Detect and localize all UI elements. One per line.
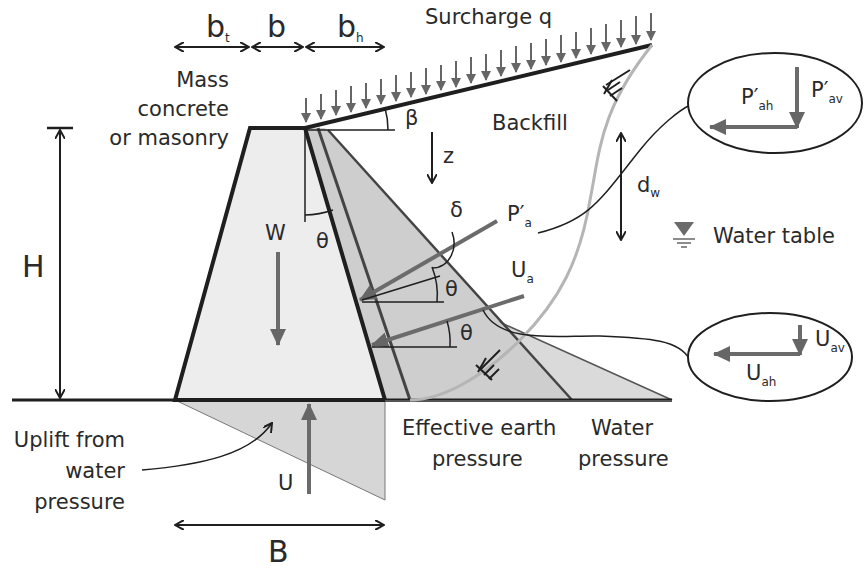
surcharge-arrows — [306, 13, 651, 122]
b-label: b — [267, 9, 286, 44]
Ua-label: Ua — [511, 258, 534, 286]
theta-label-Pa: θ — [445, 277, 458, 301]
wall-material-line1: Mass — [176, 68, 229, 92]
theta-label-wall: θ — [316, 229, 329, 253]
U-label: U — [278, 471, 293, 495]
uplift-label-line1: Uplift from — [14, 428, 125, 452]
W-label: W — [265, 221, 286, 245]
water-table-hatch-upper — [603, 70, 630, 101]
bt-label: bt — [206, 9, 230, 45]
bh-label: bh — [337, 9, 364, 45]
beta-angle-arc — [385, 108, 388, 130]
water-pressure-line2: pressure — [578, 447, 669, 471]
delta-label: δ — [450, 198, 463, 222]
effective-earth-pressure-line1: Effective earth — [402, 416, 556, 440]
wall-material-line2: concrete — [138, 97, 230, 121]
Pa-label: P′a — [507, 202, 532, 230]
dw-label: dw — [637, 173, 660, 200]
surcharge-label: Surcharge q — [425, 5, 552, 29]
retaining-wall-diagram: bt b bh Surcharge q Backfill β z Mass co… — [0, 0, 866, 568]
z-label: z — [443, 144, 454, 168]
theta-label-Ua: θ — [460, 321, 473, 345]
water-pressure-line1: Water — [591, 416, 653, 440]
beta-label: β — [405, 106, 418, 130]
backfill-slope — [305, 45, 652, 128]
H-label: H — [22, 249, 45, 284]
backfill-label: Backfill — [492, 111, 568, 135]
B-label: B — [268, 534, 289, 568]
wall-material-line3: or masonry — [109, 126, 229, 150]
effective-earth-pressure-line2: pressure — [432, 447, 523, 471]
uplift-label-line2: water — [65, 459, 125, 483]
Uav-label: Uav — [815, 327, 845, 355]
water-table-label: Water table — [713, 224, 835, 248]
water-table-icon — [673, 222, 695, 247]
uplift-label-line3: pressure — [34, 490, 125, 514]
